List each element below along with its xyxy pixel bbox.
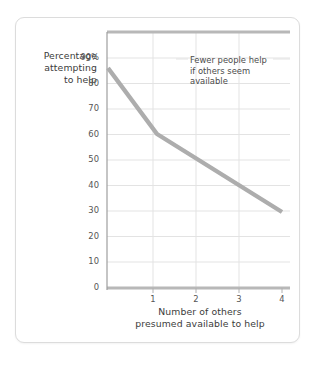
y-tick-label-10: 10 [71, 257, 99, 266]
y-tick-label-40: 40 [71, 181, 99, 190]
y-tick-label-0: 0 [71, 283, 99, 292]
chart-annotation: Fewer people help if others seem availab… [190, 55, 286, 87]
x-tick-label-4: 4 [272, 295, 292, 304]
x-tick-label-3: 3 [229, 295, 249, 304]
y-tick-label-90: 90% [71, 53, 99, 62]
chart-figure: Percentage attempting to help Number of … [0, 0, 316, 366]
x-axis-title: Number of others presumed available to h… [107, 306, 293, 330]
y-tick-label-70: 70 [71, 104, 99, 113]
y-tick-label-50: 50 [71, 155, 99, 164]
y-tick-label-60: 60 [71, 130, 99, 139]
data-line-series-1 [108, 68, 282, 212]
y-tick-label-80: 80 [71, 79, 99, 88]
y-tick-label-20: 20 [71, 232, 99, 241]
x-tick-label-1: 1 [143, 295, 163, 304]
y-tick-label-30: 30 [71, 206, 99, 215]
x-tick-label-2: 2 [186, 295, 206, 304]
